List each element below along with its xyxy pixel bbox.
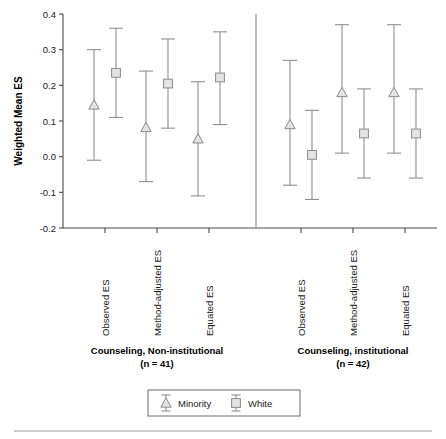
y-tick-label: -0.1 [40, 187, 56, 198]
white-marker-square [164, 79, 173, 88]
minority-marker-triangle [141, 122, 151, 131]
white-marker-square [216, 73, 225, 82]
chart-figure: 0.40.30.20.10.0-0.1-0.2Weighted Mean ESO… [0, 0, 446, 439]
legend-box [148, 390, 300, 416]
y-tick-label: 0.1 [43, 116, 56, 127]
y-tick-label: -0.2 [40, 223, 56, 234]
x-category-label: Observed ES [296, 280, 307, 337]
y-axis-title: Weighted Mean ES [13, 76, 24, 166]
y-tick-label: 0.2 [43, 80, 56, 91]
x-category-label: Equated ES [204, 285, 215, 336]
white-marker-square [412, 129, 421, 138]
y-tick-label: 0.3 [43, 44, 56, 55]
group-title: Counseling, institutional [298, 345, 409, 356]
white-marker-square [112, 68, 121, 77]
group-title: Counseling, Non-institutional [91, 345, 223, 356]
x-category-label: Method-adjusted ES [348, 250, 359, 336]
x-category-label: Method-adjusted ES [152, 250, 163, 336]
y-tick-label: 0.0 [43, 151, 56, 162]
y-tick-label: 0.4 [43, 9, 56, 20]
minority-marker-triangle [337, 87, 347, 96]
x-category-label: Equated ES [400, 285, 411, 336]
error-bar-plot: 0.40.30.20.10.0-0.1-0.2Weighted Mean ESO… [0, 0, 446, 439]
minority-marker-triangle [193, 134, 203, 143]
minority-marker-triangle [389, 87, 399, 96]
minority-marker-triangle [89, 100, 99, 109]
minority-marker-triangle [285, 119, 295, 128]
x-category-label: Observed ES [100, 280, 111, 337]
legend-label: Minority [178, 398, 212, 409]
white-marker-square [308, 150, 317, 159]
white-marker-square [360, 129, 369, 138]
legend-label: White [248, 398, 272, 409]
legend-white-square-icon [232, 399, 241, 408]
group-sample-size: (n = 42) [336, 358, 370, 369]
group-sample-size: (n = 41) [140, 358, 174, 369]
